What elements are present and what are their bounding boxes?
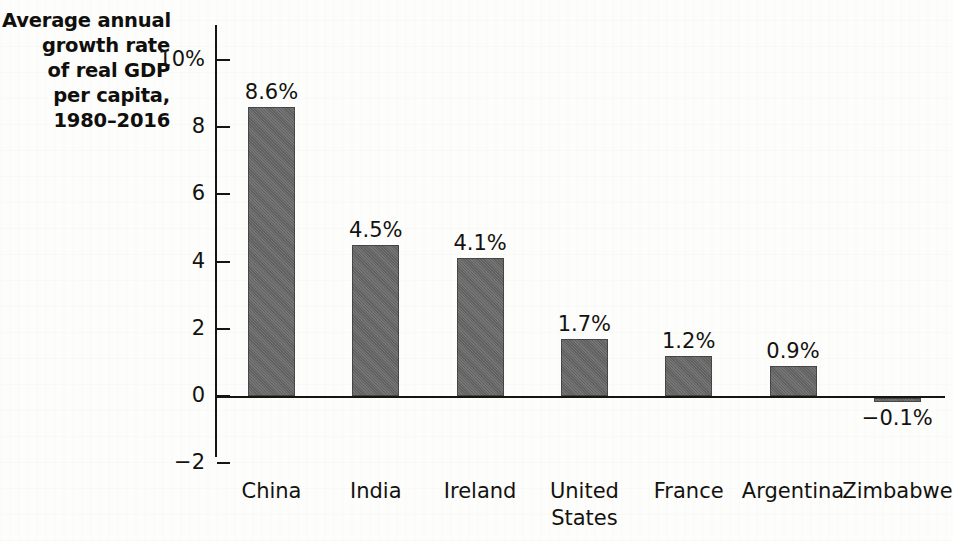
tick-label: 2 <box>192 316 205 340</box>
category-label-argentina: Argentina <box>738 478 848 505</box>
plot-area: 10%86420−2 8.6%4.5%4.1%1.7%1.2%0.9%−0.1% <box>215 25 945 457</box>
tick-label: −2 <box>174 450 205 474</box>
tick-label: 10% <box>158 47 205 71</box>
chart-title: Average annual growth rate of real GDP p… <box>2 8 170 133</box>
category-label-china: China <box>217 478 327 505</box>
tick-mark <box>217 462 230 464</box>
value-label-china: 8.6% <box>232 80 312 104</box>
tick-mark <box>217 395 230 397</box>
bar-argentina <box>770 366 817 396</box>
bar-india <box>352 245 399 396</box>
title-line-3: of real GDP <box>2 58 170 83</box>
category-label-zimbabwe: Zimbabwe <box>842 478 952 505</box>
title-line-1: Average annual <box>2 8 170 33</box>
title-line-2: growth rate <box>2 33 170 58</box>
title-line-4: per capita, <box>2 83 170 108</box>
y-axis <box>215 25 217 457</box>
value-label-ireland: 4.1% <box>440 231 520 255</box>
value-label-argentina: 0.9% <box>753 339 833 363</box>
category-label-ireland: Ireland <box>425 478 535 505</box>
value-label-united-states: 1.7% <box>544 312 624 336</box>
bar-france <box>665 356 712 396</box>
category-label-france: France <box>634 478 744 505</box>
tick-mark <box>217 328 230 330</box>
bar-ireland <box>457 258 504 396</box>
value-label-zimbabwe: −0.1% <box>857 406 937 430</box>
tick-mark <box>217 59 230 61</box>
tick-label: 4 <box>192 249 205 273</box>
value-label-india: 4.5% <box>336 218 416 242</box>
tick-label: 8 <box>192 114 205 138</box>
tick-label: 0 <box>192 383 205 407</box>
bar-united-states <box>561 339 608 396</box>
tick-mark <box>217 193 230 195</box>
title-line-5: 1980–2016 <box>2 108 170 133</box>
bar-zimbabwe <box>874 398 921 402</box>
tick-mark <box>217 261 230 263</box>
zero-baseline <box>215 396 945 398</box>
bar-china <box>248 107 295 396</box>
category-label-india: India <box>321 478 431 505</box>
category-label-united-states: United States <box>529 478 639 532</box>
value-label-france: 1.2% <box>649 329 729 353</box>
tick-mark <box>217 126 230 128</box>
tick-label: 6 <box>192 181 205 205</box>
